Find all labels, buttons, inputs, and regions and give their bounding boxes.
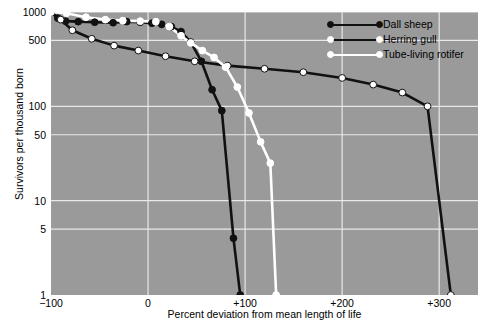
data-point-1-14 <box>424 103 431 110</box>
data-point-1-9 <box>261 65 268 72</box>
data-point-2-1 <box>63 12 70 17</box>
data-point-2-7 <box>166 23 173 30</box>
x-axis-label: Percent deviation from mean length of li… <box>51 308 478 320</box>
legend-marker-dot <box>327 36 334 43</box>
y-axis-label: Survivors per thousand born <box>13 39 25 229</box>
legend-entry-0[interactable]: Dall sheep <box>327 17 464 32</box>
x-tick-label: +200 <box>312 298 372 309</box>
data-point-1-10 <box>300 69 307 76</box>
data-point-2-17 <box>273 292 280 295</box>
legend-label: Dall sheep <box>383 19 433 30</box>
legend-swatch <box>327 34 383 46</box>
x-tick-label: 0 <box>118 298 178 309</box>
x-tick-label: +100 <box>215 298 275 309</box>
legend-line <box>330 54 380 56</box>
data-point-1-11 <box>339 75 346 82</box>
data-point-1-13 <box>399 89 406 96</box>
data-point-0-13 <box>198 58 205 65</box>
legend-label: Herring gull <box>383 34 437 45</box>
data-point-2-4 <box>119 17 126 24</box>
data-point-2-5 <box>137 18 144 25</box>
legend-label: Tube-living rotifer <box>383 49 464 60</box>
data-point-1-1 <box>57 16 64 23</box>
legend-swatch <box>327 19 383 31</box>
data-point-1-12 <box>370 81 377 88</box>
data-point-0-15 <box>218 107 225 114</box>
data-point-2-16 <box>267 160 274 167</box>
data-point-0-14 <box>209 86 216 93</box>
data-point-2-9 <box>187 40 194 47</box>
data-point-2-10 <box>199 47 206 54</box>
data-point-0-4 <box>91 19 98 26</box>
x-tick-label: +300 <box>409 298 469 309</box>
legend-marker-dot <box>376 36 383 43</box>
x-tick-label: −100 <box>21 298 81 309</box>
data-point-1-4 <box>111 42 118 49</box>
legend-swatch <box>327 49 383 61</box>
legend-marker-dot <box>376 51 383 58</box>
data-point-2-3 <box>102 16 109 23</box>
data-point-2-2 <box>83 14 90 21</box>
legend-line <box>330 24 380 26</box>
data-point-0-17 <box>237 292 244 295</box>
legend-marker-dot <box>327 21 334 28</box>
data-point-1-3 <box>88 35 95 42</box>
data-point-1-7 <box>191 58 198 65</box>
data-point-1-6 <box>162 53 169 60</box>
data-point-0-3 <box>75 18 82 25</box>
data-point-1-15 <box>447 292 454 295</box>
data-point-2-14 <box>246 110 253 117</box>
data-point-2-13 <box>234 84 241 91</box>
data-point-1-2 <box>69 27 76 34</box>
chart-legend: Dall sheepHerring gullTube-living rotife… <box>327 17 464 62</box>
legend-entry-2[interactable]: Tube-living rotifer <box>327 47 464 62</box>
data-point-2-6 <box>152 18 159 25</box>
data-point-0-16 <box>230 235 237 242</box>
y-tick-label: 1000 <box>0 7 46 18</box>
legend-entry-1[interactable]: Herring gull <box>327 32 464 47</box>
data-point-2-15 <box>257 138 264 145</box>
data-point-2-8 <box>178 32 185 39</box>
legend-marker-dot <box>327 51 334 58</box>
survivorship-chart-figure: 1000500100501051 −1000+100+200+300 Survi… <box>0 0 484 326</box>
data-point-2-12 <box>222 64 229 71</box>
data-point-0-5 <box>110 19 117 26</box>
legend-marker-dot <box>376 21 383 28</box>
data-point-2-11 <box>211 54 218 61</box>
data-point-1-5 <box>135 47 142 54</box>
legend-line <box>330 39 380 41</box>
